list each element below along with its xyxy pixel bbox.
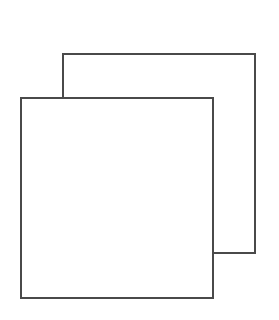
copy-icon <box>0 0 279 320</box>
front-square <box>20 97 214 299</box>
